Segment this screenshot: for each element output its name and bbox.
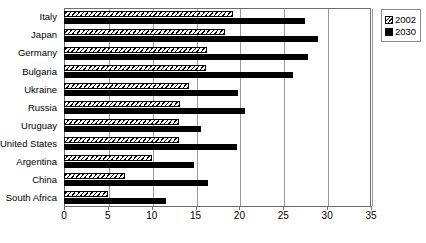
- hatched-swatch: [385, 16, 393, 24]
- category-axis-labels: ItalyJapanGermanyBulgariaUkraineRussiaUr…: [0, 8, 60, 207]
- x-tick-label: 10: [146, 210, 157, 221]
- bar-2030: [64, 162, 194, 168]
- bar-2002: [64, 101, 180, 107]
- category-label: Russia: [0, 98, 60, 116]
- bar-2030: [64, 198, 166, 204]
- category-label: Ukraine: [0, 80, 60, 98]
- bar-2002: [64, 47, 207, 53]
- bars-container: [64, 8, 371, 207]
- x-tick-label: 15: [190, 210, 201, 221]
- bar-2030: [64, 90, 238, 96]
- bar-2030: [64, 18, 305, 24]
- x-tick-label: 35: [365, 210, 376, 221]
- bar-2002: [64, 83, 189, 89]
- bar-group: [64, 62, 371, 80]
- legend-label: 2002: [395, 15, 416, 25]
- category-label: Uruguay: [0, 116, 60, 134]
- gridline-35: [372, 9, 373, 206]
- category-label: South Africa: [0, 189, 60, 207]
- bar-2002: [64, 29, 225, 35]
- bar-2002: [64, 173, 125, 179]
- solid-black-swatch: [385, 28, 393, 36]
- category-label: Japan: [0, 26, 60, 44]
- category-label: China: [0, 171, 60, 189]
- bar-group: [64, 8, 371, 26]
- bar-group: [64, 80, 371, 98]
- bar-2030: [64, 54, 308, 60]
- x-tick-label: 25: [278, 210, 289, 221]
- x-tick-label: 20: [234, 210, 245, 221]
- bar-2030: [64, 72, 293, 78]
- bar-2002: [64, 191, 108, 197]
- bar-group: [64, 26, 371, 44]
- category-label: Argentina: [0, 153, 60, 171]
- legend-label: 2030: [395, 27, 416, 37]
- legend-item: 2002: [385, 14, 416, 25]
- bar-2030: [64, 180, 208, 186]
- bar-group: [64, 98, 371, 116]
- bar-group: [64, 189, 371, 207]
- bar-2030: [64, 144, 237, 150]
- bar-2002: [64, 137, 179, 143]
- legend: 20022030: [381, 9, 421, 42]
- bar-group: [64, 116, 371, 134]
- category-label: Germany: [0, 44, 60, 62]
- bar-2002: [64, 155, 152, 161]
- bar-group: [64, 153, 371, 171]
- category-label: Bulgaria: [0, 62, 60, 80]
- category-label: United States: [0, 135, 60, 153]
- bar-group: [64, 135, 371, 153]
- bar-2030: [64, 108, 245, 114]
- bar-chart: ItalyJapanGermanyBulgariaUkraineRussiaUr…: [0, 0, 426, 243]
- bar-group: [64, 171, 371, 189]
- bar-2030: [64, 126, 201, 132]
- legend-item: 2030: [385, 26, 416, 37]
- bar-group: [64, 44, 371, 62]
- bar-2030: [64, 36, 318, 42]
- bar-2002: [64, 119, 179, 125]
- bar-2002: [64, 11, 233, 17]
- x-tick-label: 0: [61, 210, 67, 221]
- bar-2002: [64, 65, 206, 71]
- x-tick-label: 5: [105, 210, 111, 221]
- category-label: Italy: [0, 8, 60, 26]
- x-axis: 05101520253035: [64, 210, 371, 226]
- x-tick-label: 30: [322, 210, 333, 221]
